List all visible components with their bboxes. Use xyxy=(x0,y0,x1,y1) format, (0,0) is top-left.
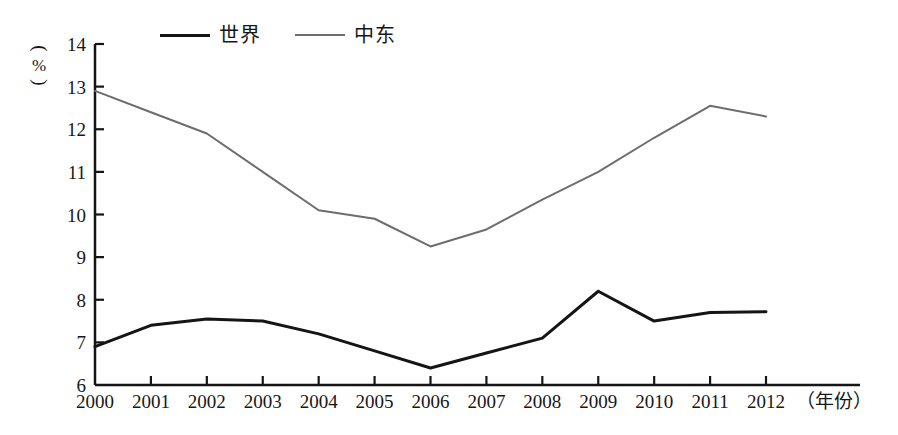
y-tick-label: 7 xyxy=(56,333,86,352)
y-tick-label: 12 xyxy=(56,120,86,139)
y-tick-label: 14 xyxy=(56,35,86,54)
axes xyxy=(95,44,860,385)
axis-ticks xyxy=(95,44,766,385)
y-tick-label: 13 xyxy=(56,78,86,97)
y-tick-label: 10 xyxy=(56,206,86,225)
y-tick-label: 9 xyxy=(56,248,86,267)
series-line-world xyxy=(95,291,766,368)
x-tick-label: 2012 xyxy=(733,392,799,411)
series-line-middle-east xyxy=(95,91,766,247)
y-tick-label: 11 xyxy=(56,163,86,182)
x-axis-title: （年份） xyxy=(796,392,872,411)
line-chart: 世界 中东 ( % ) 67891011121314 2000200120022… xyxy=(0,0,898,435)
y-tick-label: 8 xyxy=(56,291,86,310)
plot-area xyxy=(0,0,898,435)
